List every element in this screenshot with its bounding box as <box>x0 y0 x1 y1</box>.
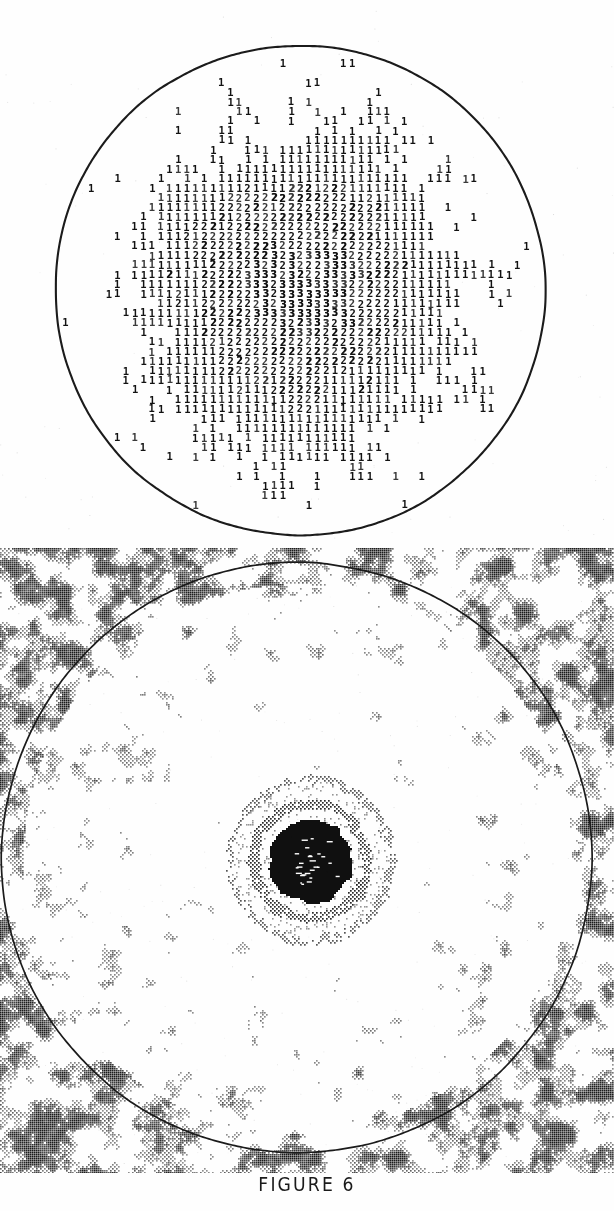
top-character-plot <box>0 0 614 548</box>
contour-plot-canvas <box>0 548 614 1173</box>
bottom-contour-plot <box>0 548 614 1173</box>
character-plot-canvas <box>0 0 614 548</box>
figure-caption: FIGURE 6 <box>43 1172 571 1196</box>
scanned-figure-page: FIGURE 6 <box>0 0 614 1211</box>
